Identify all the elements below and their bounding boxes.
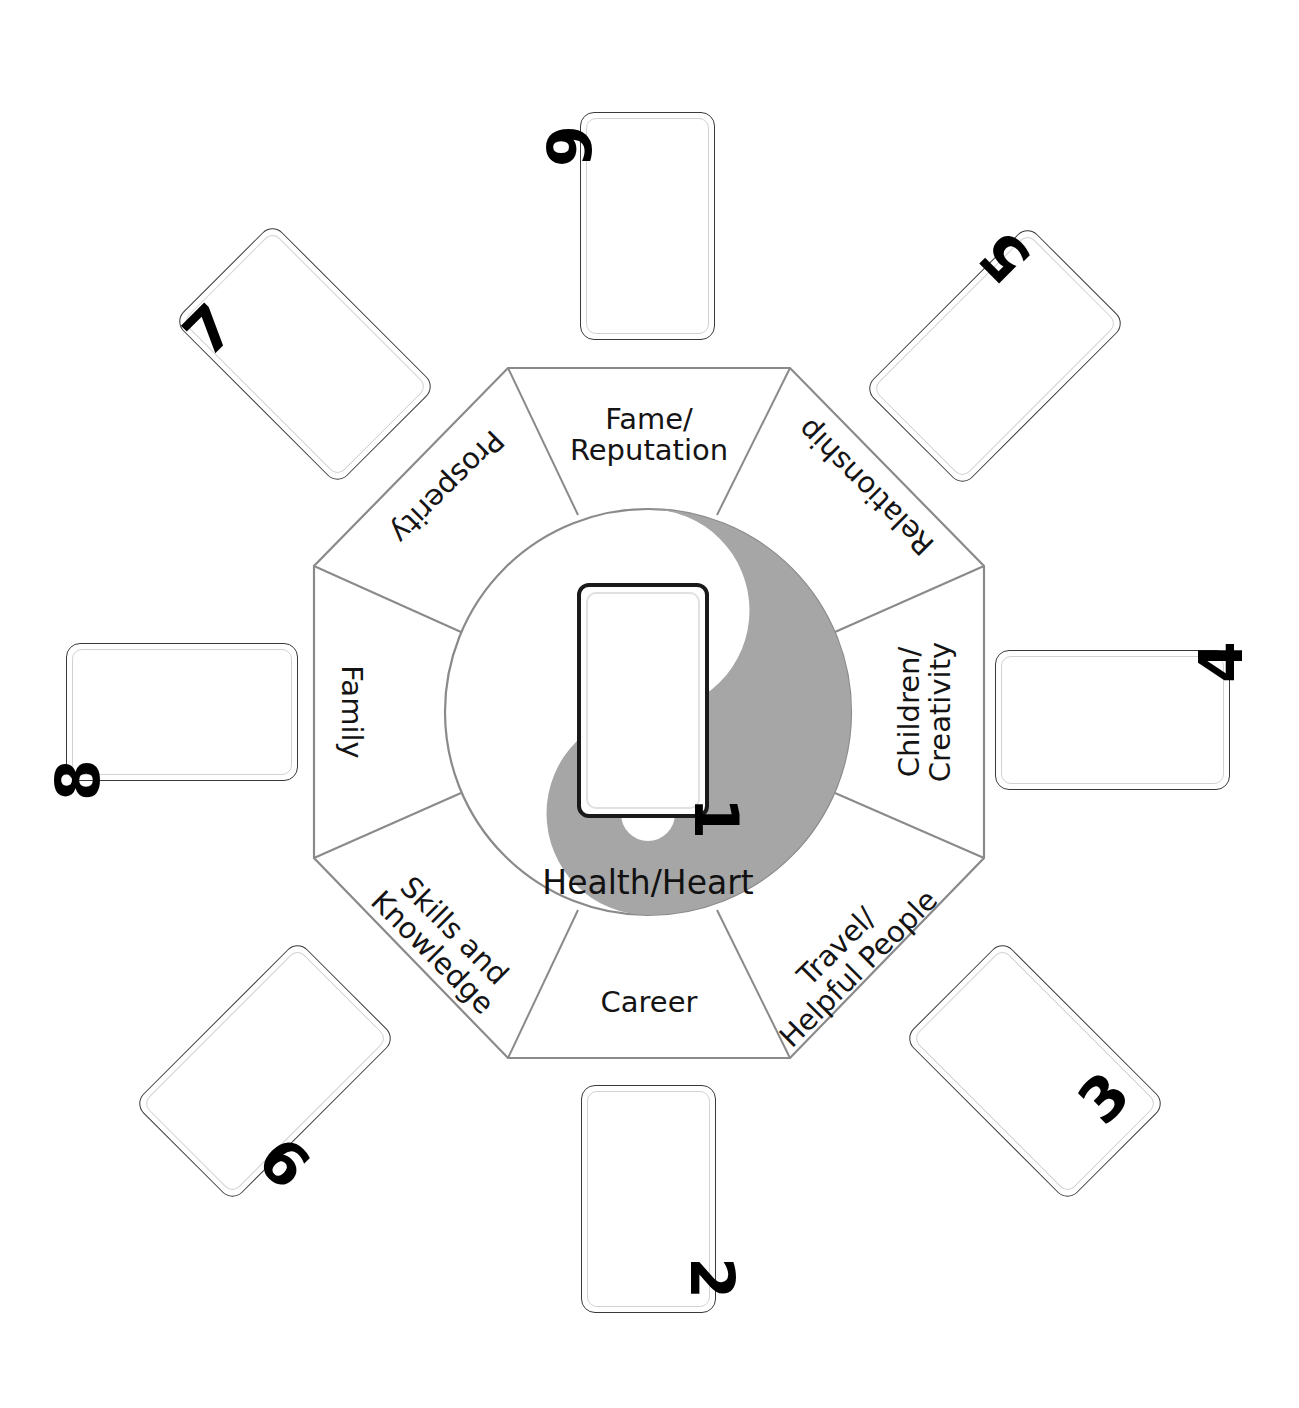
diagram-canvas: Fame/ Reputation Relationship Children/ … (0, 0, 1299, 1408)
card-8-inner (72, 649, 292, 775)
sector-label-career: Career (601, 987, 698, 1017)
sector-label-children-line2: Creativity (925, 642, 956, 782)
card-1[interactable] (577, 583, 709, 818)
sector-label-fame-line1: Fame/ (570, 404, 728, 435)
taiji-center-label: Health/Heart (542, 863, 753, 902)
sector-label-family: Family (337, 665, 367, 758)
card-1-inner (586, 592, 700, 809)
sector-label-children-line1: Children/ (894, 642, 925, 782)
sector-label-fame: Fame/ Reputation (570, 404, 728, 467)
sector-label-fame-line2: Reputation (570, 435, 728, 466)
sector-label-family-text: Family (337, 665, 367, 758)
card-9-number: 9 (540, 125, 600, 167)
sector-label-career-text: Career (601, 987, 698, 1017)
card-8-number: 8 (48, 759, 108, 801)
sector-label-children: Children/ Creativity (894, 642, 957, 782)
card-2-number: 2 (682, 1257, 742, 1299)
card-4-number: 4 (1191, 641, 1251, 683)
card-1-number: 1 (686, 797, 746, 839)
